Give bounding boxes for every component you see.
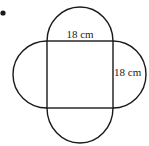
square-with-semicircles-diagram: 18 cm 18 cm <box>0 0 149 146</box>
right-side-label: 18 cm <box>114 66 142 78</box>
bottom-semicircle <box>47 108 113 143</box>
left-semicircle <box>13 41 47 108</box>
square <box>47 41 113 108</box>
bullet-marker <box>0 10 5 15</box>
top-side-label: 18 cm <box>66 28 94 40</box>
